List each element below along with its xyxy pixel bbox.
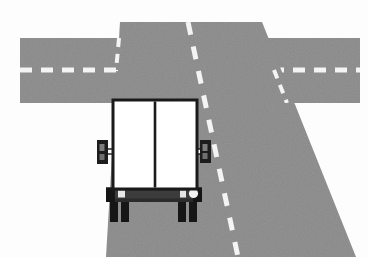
truck-wheel-rear-right-outer <box>189 199 197 222</box>
truck-wheel-rear-left-inner <box>121 199 129 222</box>
truck-body <box>113 100 197 189</box>
illustration-canvas: Truck travelling on a roadway approachin… <box>0 0 368 257</box>
truck-wheel-rear-left-outer <box>110 199 118 222</box>
truck-wheel-rear-right-inner <box>178 199 186 222</box>
truck-mirror-left <box>97 140 108 164</box>
road-scene-illustration: Truck travelling on a roadway approachin… <box>0 0 368 257</box>
truck-lamp-right-inner <box>180 191 186 198</box>
truck-lamp-left <box>118 191 125 198</box>
truck-mirror-right <box>200 140 211 163</box>
